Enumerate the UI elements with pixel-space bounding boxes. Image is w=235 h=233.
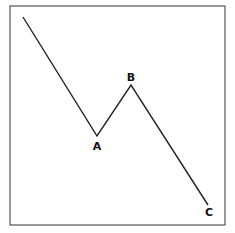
price-wave-line bbox=[23, 17, 208, 205]
diagram-frame bbox=[10, 6, 225, 225]
label-point-b: B bbox=[127, 71, 135, 84]
abc-wave-diagram: A B C bbox=[0, 0, 235, 233]
label-point-a: A bbox=[93, 140, 102, 153]
label-point-c: C bbox=[205, 206, 213, 219]
